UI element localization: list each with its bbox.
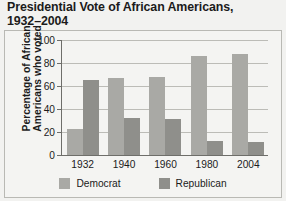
x-axis-labels: 19321940196019802004 — [62, 159, 269, 173]
legend-label: Republican — [176, 178, 227, 189]
y-tick-label: 0 — [49, 150, 55, 161]
y-tick-mark — [57, 132, 61, 133]
bar-democrat-1940 — [108, 78, 124, 155]
bar-republican-1932 — [83, 80, 99, 155]
y-tick-mark — [57, 63, 61, 64]
y-tick-label: 100 — [38, 35, 55, 46]
legend-swatch-icon — [159, 178, 170, 189]
legend-swatch-icon — [59, 178, 70, 189]
chart-figure: Presidential Vote of African Americans, … — [0, 0, 286, 201]
y-tick-label: 20 — [44, 127, 55, 138]
x-axis-line — [61, 155, 268, 156]
bar-group — [186, 40, 227, 155]
bar-group — [62, 40, 103, 155]
bar-republican-2004 — [248, 142, 264, 155]
x-axis-label: 1980 — [196, 159, 219, 170]
chart-title: Presidential Vote of African Americans, … — [7, 1, 279, 28]
chart-legend: DemocratRepublican — [5, 178, 281, 189]
y-tick-label: 80 — [44, 58, 55, 69]
chart-plot-container: Percentage of African Americans who vote… — [4, 30, 282, 198]
y-tick-label: 60 — [44, 81, 55, 92]
bar-republican-1960 — [165, 119, 181, 155]
bars-layer — [62, 40, 268, 155]
y-tick-mark — [57, 40, 61, 41]
legend-item: Democrat — [59, 178, 120, 189]
bar-group — [103, 40, 144, 155]
x-axis-label: 2004 — [237, 159, 260, 170]
y-tick-mark — [57, 155, 61, 156]
legend-label: Democrat — [76, 178, 120, 189]
x-axis-label: 1960 — [154, 159, 177, 170]
y-tick-mark — [57, 109, 61, 110]
x-axis-label: 1932 — [71, 159, 94, 170]
bar-group — [228, 40, 269, 155]
x-axis-label: 1940 — [113, 159, 136, 170]
y-tick-mark — [57, 86, 61, 87]
bar-group — [145, 40, 186, 155]
y-tick-label: 40 — [44, 104, 55, 115]
bar-democrat-1932 — [67, 129, 83, 155]
plot-area: 020406080100 — [61, 40, 268, 155]
legend-item: Republican — [159, 178, 227, 189]
bar-republican-1980 — [207, 141, 223, 155]
bar-democrat-1960 — [149, 77, 165, 155]
bar-democrat-2004 — [232, 54, 248, 155]
bar-republican-1940 — [124, 118, 140, 155]
bar-democrat-1980 — [191, 56, 207, 155]
